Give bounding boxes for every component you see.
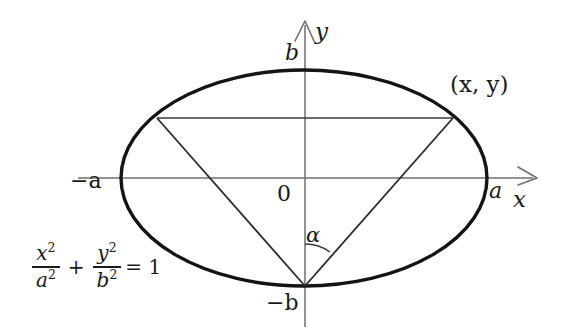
equation-right-hand-side: = 1 (125, 255, 161, 279)
denominator-exponent: 2 (48, 267, 56, 282)
y-axis-label: y (315, 20, 328, 43)
fraction-x-over-a: x2 a2 (32, 243, 60, 291)
numerator-exponent: 2 (109, 240, 117, 255)
numerator-exponent: 2 (48, 240, 56, 255)
equation-plus-sign: + (68, 255, 85, 279)
fraction-denominator: b2 (93, 270, 122, 291)
triangle-right-side (305, 118, 453, 286)
label-minus-b: −b (266, 292, 299, 314)
denominator-exponent: 2 (109, 267, 117, 282)
label-a: a (489, 180, 502, 202)
label-alpha: α (306, 225, 320, 246)
x-axis-arrowhead (518, 167, 537, 185)
fraction-denominator: a2 (32, 270, 60, 291)
fraction-numerator: y2 (93, 243, 120, 264)
label-point-xy: (x, y) (450, 73, 509, 96)
y-axis (295, 21, 314, 327)
x-axis-label: x (513, 188, 526, 211)
ellipse-figure: y x b −b −a a 0 α (x, y) x2 a2 + y2 b2 =… (0, 0, 567, 336)
ellipse-equation: x2 a2 + y2 b2 = 1 (30, 243, 161, 291)
fraction-numerator: x2 (32, 243, 59, 264)
label-origin: 0 (277, 183, 291, 205)
denominator-variable: b (97, 268, 110, 292)
numerator-variable: x (36, 241, 47, 265)
label-b: b (285, 42, 299, 64)
x-axis (78, 167, 537, 185)
fraction-y-over-b: y2 b2 (93, 243, 122, 291)
denominator-variable: a (36, 268, 48, 292)
label-minus-a: −a (70, 170, 102, 192)
numerator-variable: y (97, 241, 108, 265)
